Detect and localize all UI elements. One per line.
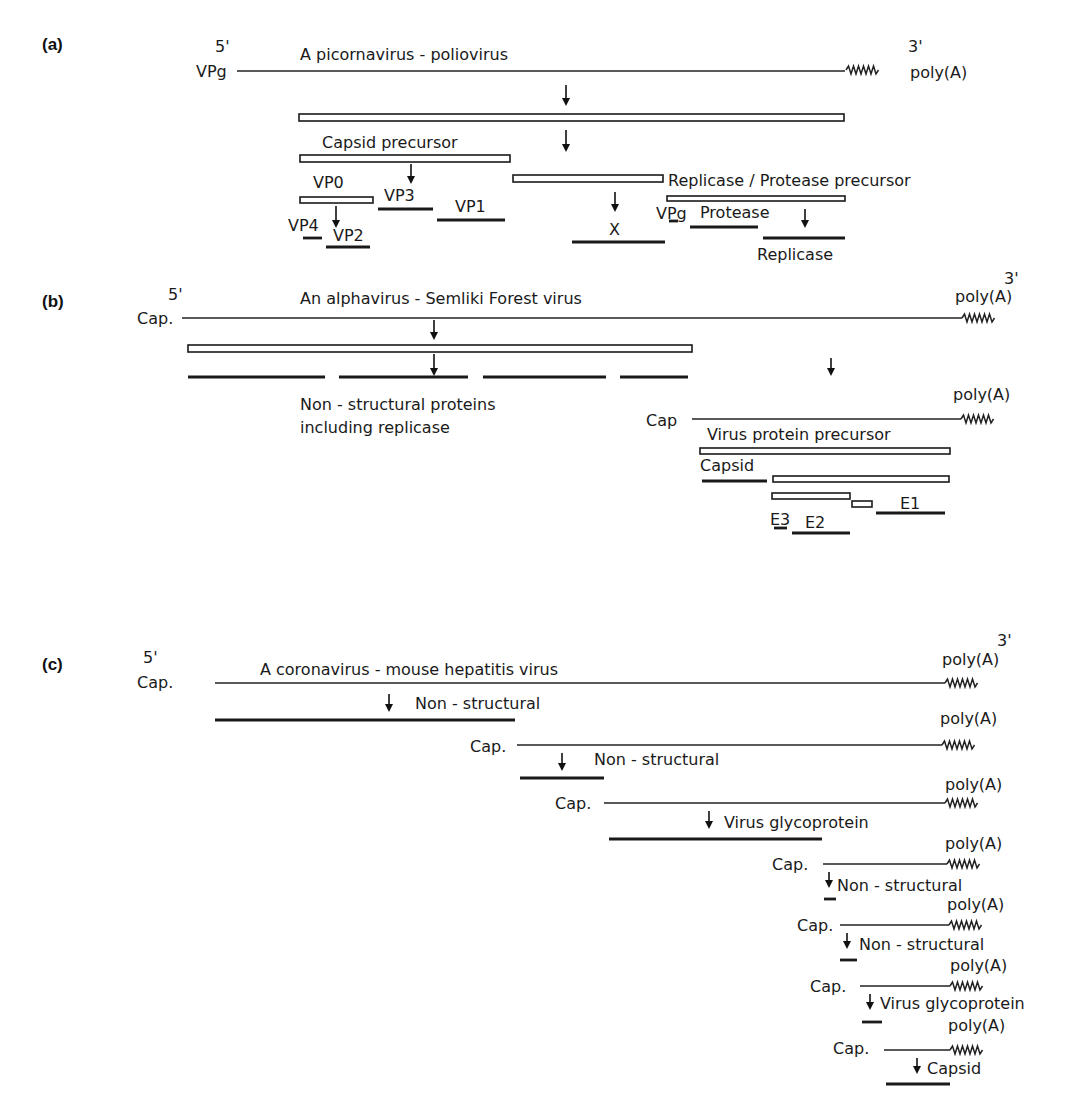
- e2-label: E2: [805, 513, 825, 532]
- replicase-label: Replicase: [757, 245, 833, 264]
- subgenomic-cap-label: Cap: [646, 411, 677, 430]
- translation-arrow-icon: [825, 872, 833, 888]
- e1-label: E1: [900, 494, 920, 513]
- vp4-label: VP4: [288, 216, 319, 235]
- rep-prot-bar-2: [667, 196, 845, 201]
- rep-prot-precursor-bar: [513, 175, 663, 182]
- three-prime-marker: 3': [997, 631, 1012, 650]
- virus-protein-precursor-label: Virus protein precursor: [707, 425, 891, 444]
- translation-arrow-icon: [913, 1058, 921, 1074]
- product-label: Non - structural: [594, 750, 719, 769]
- polya-tail-icon: [945, 799, 978, 807]
- envelope-precursor-bar: [773, 476, 949, 482]
- rep-prot-precursor-label: Replicase / Protease precursor: [668, 171, 911, 190]
- polya-tail-icon: [846, 66, 879, 74]
- panel-b-title: An alphavirus - Semliki Forest virus: [300, 289, 582, 308]
- mrna-4: poly(A) Cap. Virus glycoprotein: [555, 775, 1002, 839]
- polya-tail-icon: [949, 921, 982, 929]
- mrna-8: poly(A) Cap. Capsid: [833, 1016, 1005, 1084]
- panel-c: (c) 5' Cap. A coronavirus - mouse hepati…: [42, 631, 1025, 1084]
- virus-protein-precursor-bar: [700, 448, 950, 454]
- panel-b-label: (b): [42, 292, 64, 311]
- cleavage-arrow-icon: [430, 320, 438, 340]
- e3-label: E3: [770, 510, 790, 529]
- panel-c-label: (c): [42, 655, 63, 674]
- polya-label: poly(A): [947, 895, 1004, 914]
- cap-label: Cap.: [810, 977, 846, 996]
- capsid-precursor-label: Capsid precursor: [322, 133, 458, 152]
- p62-precursor-bar: [772, 493, 850, 499]
- cleavage-arrow-icon: [611, 192, 619, 212]
- five-prime-marker: 5': [215, 37, 230, 56]
- nonstructural-label-1: Non - structural proteins: [300, 395, 496, 414]
- capsid-precursor-bar: [300, 155, 510, 162]
- cleavage-arrow-icon: [562, 130, 570, 152]
- mrna-2: poly(A): [940, 709, 997, 728]
- cleavage-arrow-icon: [801, 209, 809, 228]
- product-label: Capsid: [927, 1059, 981, 1078]
- five-prime-marker: 5': [168, 285, 183, 304]
- translation-arrow-icon: [705, 811, 713, 829]
- cap-label: Cap.: [797, 916, 833, 935]
- polya-label: poly(A): [955, 287, 1012, 306]
- cleavage-arrow-icon: [562, 85, 570, 106]
- three-prime-marker: 3': [1004, 269, 1019, 288]
- polya-label: poly(A): [948, 1016, 1005, 1035]
- cleavage-arrow-icon: [430, 354, 438, 376]
- vpg-5prime-end: VPg: [196, 62, 227, 81]
- mrna-1: Non - structural: [215, 694, 540, 720]
- product-label: Non - structural: [859, 935, 984, 954]
- polya-tail-icon: [950, 982, 983, 990]
- nonstructural-label-2: including replicase: [300, 418, 450, 437]
- vp0-label: VP0: [313, 173, 344, 192]
- x-label: X: [609, 220, 620, 239]
- translation-arrow-icon: [866, 994, 874, 1010]
- k6-peptide-bar: [852, 501, 872, 507]
- polya-tail-icon: [962, 314, 995, 322]
- mrna-6: poly(A) Cap. Non - structural: [797, 895, 1004, 960]
- subgenomic-polya-label: poly(A): [953, 385, 1010, 404]
- subgenomic-arrow-icon: [827, 358, 835, 376]
- panel-a: (a) 5' VPg A picornavirus - poliovirus p…: [42, 35, 967, 264]
- panel-a-title: A picornavirus - poliovirus: [300, 45, 508, 64]
- three-prime-marker: 3': [908, 37, 923, 56]
- polya-label: poly(A): [945, 834, 1002, 853]
- five-prime-marker: 5': [143, 648, 158, 667]
- cleavage-arrow-icon: [407, 164, 415, 184]
- panel-b: (b) 5' Cap. An alphavirus - Semliki Fore…: [42, 269, 1019, 533]
- polya-tail-icon: [961, 415, 994, 423]
- polya-label: poly(A): [950, 956, 1007, 975]
- polya-label: poly(A): [945, 775, 1002, 794]
- cap-label: Cap.: [555, 794, 591, 813]
- polya-tail-icon: [942, 741, 975, 749]
- panel-c-title: A coronavirus - mouse hepatitis virus: [260, 660, 558, 679]
- panel-a-label: (a): [42, 35, 63, 54]
- polya-label: poly(A): [942, 650, 999, 669]
- mrna-3: Cap. Non - structural: [470, 737, 975, 778]
- protease-label: Protease: [700, 203, 769, 222]
- cleavage-arrow-icon: [332, 206, 340, 228]
- translation-arrow-icon: [385, 694, 393, 712]
- polya-tail-icon: [947, 860, 980, 868]
- polya-label: poly(A): [940, 709, 997, 728]
- polya-tail-icon: [945, 679, 978, 687]
- translation-arrow-icon: [843, 933, 851, 949]
- vp1-label: VP1: [455, 197, 486, 216]
- cap-5prime-end: Cap.: [137, 309, 173, 328]
- vp0-bar: [300, 197, 373, 203]
- cap-label: Cap.: [772, 855, 808, 874]
- polyprotein-bar: [299, 114, 844, 121]
- cap-label: Cap.: [833, 1039, 869, 1058]
- polya-tail-icon: [950, 1046, 983, 1054]
- vp3-label: VP3: [384, 186, 415, 205]
- vp2-label: VP2: [333, 226, 364, 245]
- translation-arrow-icon: [558, 753, 566, 771]
- polya-label: poly(A): [910, 63, 967, 82]
- mrna-5: poly(A) Cap. Non - structural: [772, 834, 1002, 899]
- product-label: Non - structural: [415, 694, 540, 713]
- nonstructural-precursor-bar: [188, 345, 692, 352]
- mrna-7: poly(A) Cap. Virus glycoprotein: [810, 956, 1025, 1022]
- product-label: Virus glycoprotein: [880, 994, 1025, 1013]
- cap-label: Cap.: [470, 737, 506, 756]
- product-label: Non - structural: [837, 876, 962, 895]
